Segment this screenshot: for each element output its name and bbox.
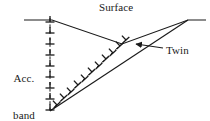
surface-label: Surface [99, 1, 133, 13]
inclined-band-dislocations [50, 33, 130, 109]
surface-line-group [24, 20, 206, 44]
twin-leader-group [136, 44, 163, 48]
twin-leader-line [136, 44, 163, 48]
surface-profile-line [24, 20, 206, 44]
twin-boundary-lower-line [50, 20, 188, 111]
twin-accommodation-band-figure: Surface Twin Acc. band [0, 0, 210, 121]
accommodation-band-dislocations [46, 16, 55, 110]
inclined-dislocation-wall-group [50, 33, 130, 111]
accommodation-band-group [46, 16, 55, 112]
twin-label: Twin [166, 44, 189, 56]
acc-band-label-line2: band [6, 109, 42, 121]
twin-boundary-lower-group [50, 20, 188, 111]
acc-band-label: Acc. band [6, 47, 42, 121]
acc-band-label-line1: Acc. [6, 72, 42, 84]
